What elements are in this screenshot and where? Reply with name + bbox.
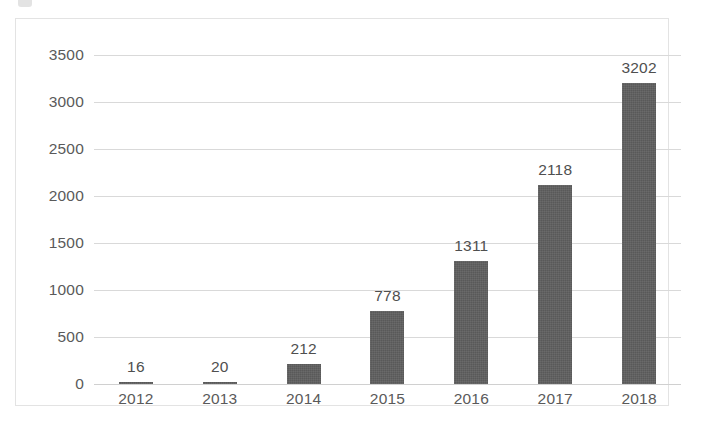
bar[interactable]: [370, 311, 404, 384]
bar-group: 2118: [513, 55, 597, 384]
bar[interactable]: [119, 382, 153, 385]
bar[interactable]: [622, 83, 656, 384]
plot-area: 1620212778131121183202: [94, 55, 681, 384]
x-axis-tick-label: 2013: [202, 390, 237, 408]
x-axis-tick-label: 2012: [118, 390, 153, 408]
bar-group: 1311: [429, 55, 513, 384]
scan-artifact: [18, 0, 32, 7]
bar-value-label: 2118: [538, 161, 572, 179]
bar-group: 778: [346, 55, 430, 384]
x-axis-tick-label: 2016: [454, 390, 489, 408]
bar[interactable]: [203, 382, 237, 385]
chart-frame: 0500100015002000250030003500 16202127781…: [15, 18, 669, 406]
bar-group: 16: [94, 55, 178, 384]
y-axis-tick-label: 1000: [49, 281, 84, 299]
x-axis-tick-label: 2017: [538, 390, 573, 408]
gridline: [94, 384, 681, 385]
y-axis: 0500100015002000250030003500: [16, 19, 94, 405]
y-axis-tick-label: 1500: [49, 234, 84, 252]
bar-series: 1620212778131121183202: [94, 55, 681, 384]
bar-value-label: 3202: [621, 59, 656, 77]
y-axis-tick-label: 3000: [49, 93, 84, 111]
bar-group: 3202: [597, 55, 681, 384]
chart-canvas: 0500100015002000250030003500 16202127781…: [0, 0, 701, 422]
x-axis-tick-label: 2014: [286, 390, 321, 408]
y-axis-tick-label: 3500: [49, 46, 84, 64]
bar-value-label: 212: [290, 340, 316, 358]
y-axis-tick-label: 2500: [49, 140, 84, 158]
bar[interactable]: [454, 261, 488, 384]
y-axis-tick-label: 500: [58, 328, 84, 346]
x-axis-tick-label: 2015: [370, 390, 405, 408]
x-axis: 2012201320142015201620172018: [94, 390, 681, 418]
bar-group: 212: [262, 55, 346, 384]
bar-value-label: 16: [127, 358, 145, 376]
y-axis-tick-label: 2000: [49, 187, 84, 205]
bar[interactable]: [287, 364, 321, 384]
x-axis-tick-label: 2018: [621, 390, 656, 408]
bar-group: 20: [178, 55, 262, 384]
bar-value-label: 1311: [454, 237, 488, 255]
y-axis-tick-label: 0: [75, 375, 84, 393]
bar[interactable]: [538, 185, 572, 384]
bar-value-label: 778: [374, 287, 400, 305]
bar-value-label: 20: [211, 358, 229, 376]
